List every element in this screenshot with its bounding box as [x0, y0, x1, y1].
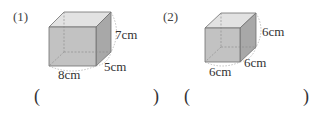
problem-1-height-label: 7cm — [115, 27, 137, 43]
problem-1-answer-close-paren: ) — [153, 86, 159, 107]
problem-2-answer-open-paren: ( — [184, 86, 190, 107]
problem-2-length-label: 6cm — [209, 64, 231, 80]
problem-1-width-label: 5cm — [104, 59, 126, 75]
problem-2-answer-close-paren: ) — [303, 86, 309, 107]
problem-1-answer-blank[interactable] — [48, 88, 148, 106]
problem-2-number: (2) — [163, 9, 178, 25]
problem-1-number: (1) — [13, 9, 28, 25]
problem-2-width-label: 6cm — [244, 55, 266, 71]
problem-1-length-label: 8cm — [58, 67, 80, 83]
problem-2-height-label: 6cm — [262, 24, 284, 40]
problem-2-answer-blank[interactable] — [198, 88, 298, 106]
problem-1-answer-open-paren: ( — [34, 86, 40, 107]
